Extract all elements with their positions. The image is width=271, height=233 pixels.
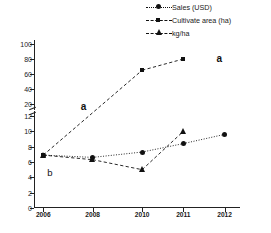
legend-item-cultivate-area: Cultivate area (ha) bbox=[146, 15, 270, 26]
y-tick-label: 80 bbox=[24, 56, 32, 63]
y-tick-label: 0 bbox=[28, 205, 32, 212]
data-point-tri bbox=[139, 166, 145, 172]
data-point-tri bbox=[89, 156, 95, 162]
square-marker-icon bbox=[156, 18, 160, 22]
annotation-b-left: b bbox=[47, 168, 52, 178]
y-tick-label: 2 bbox=[28, 189, 32, 196]
annotation-a-middle: a bbox=[81, 102, 87, 112]
data-point-tri bbox=[40, 152, 46, 158]
data-point-square bbox=[181, 57, 185, 61]
y-tick-label: 20 bbox=[24, 101, 32, 108]
y-tick-label: 6 bbox=[28, 159, 32, 166]
chart-legend: Sales (USD) Cultivate area (ha) kg/ha bbox=[146, 2, 270, 41]
legend-label-cultivate-area: Cultivate area (ha) bbox=[172, 16, 231, 25]
legend-item-sales: Sales (USD) bbox=[146, 2, 270, 13]
data-point-tri bbox=[180, 128, 186, 134]
x-tick-label: 2008 bbox=[85, 211, 100, 218]
legend-key-kgha bbox=[146, 28, 172, 39]
y-tick-label: 10 bbox=[24, 128, 32, 135]
legend-label-kgha: kg/ha bbox=[172, 29, 190, 38]
data-point-circle bbox=[222, 132, 227, 137]
y-tick-label: 8 bbox=[28, 143, 32, 150]
data-point-circle bbox=[140, 150, 145, 155]
x-tick-label: 2011 bbox=[176, 211, 190, 218]
x-tick-label: 2012 bbox=[217, 211, 232, 218]
data-point-circle bbox=[181, 141, 186, 146]
y-tick-label: 60 bbox=[24, 71, 32, 78]
legend-label-sales: Sales (USD) bbox=[172, 3, 212, 12]
plot-area: 10080604020121086420 2006200820102011201… bbox=[34, 40, 240, 208]
legend-item-kgha: kg/ha bbox=[146, 28, 270, 39]
legend-key-sales bbox=[146, 2, 172, 13]
legend-key-cultivate-area bbox=[146, 15, 172, 26]
series-markers bbox=[34, 40, 240, 208]
y-tick-label: 100 bbox=[20, 41, 32, 48]
x-tick-label: 2010 bbox=[135, 211, 150, 218]
y-tick-label: 4 bbox=[28, 174, 32, 181]
triangle-marker-icon bbox=[156, 29, 162, 35]
x-tick-label: 2006 bbox=[36, 211, 51, 218]
annotation-a-right: a bbox=[217, 54, 223, 64]
circle-marker-icon bbox=[156, 4, 161, 9]
chart-figure: Sales (USD) Cultivate area (ha) kg/ha 10… bbox=[0, 0, 271, 233]
y-tick-label: 40 bbox=[24, 86, 32, 93]
data-point-square bbox=[140, 68, 144, 72]
